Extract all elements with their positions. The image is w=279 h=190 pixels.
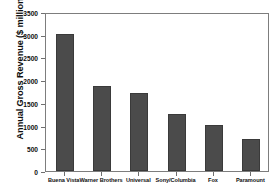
bar [56,34,74,171]
x-tick-mark [213,172,214,176]
bar [130,93,148,171]
x-tick-mark [138,172,139,176]
x-tick-label: Warner Brothers [79,177,122,183]
x-tick-mark [101,172,102,176]
y-tick-label: 3500 [23,10,38,17]
bar [168,114,186,171]
x-tick-label: Paramount [236,177,265,183]
x-tick-mark [64,172,65,176]
bar [93,86,111,171]
y-tick-mark [41,172,45,173]
y-tick-label: 3000 [23,32,38,39]
bar [205,125,223,171]
y-axis-ticks: 0500100015002000250030003500 [0,0,45,190]
y-tick-label: 2000 [23,78,38,85]
y-tick-label: 0 [34,169,38,176]
y-tick-label: 2500 [23,55,38,62]
x-tick-label: Sony/Columbia [156,177,196,183]
bar-chart-figure: Annual Gross Revenue ($ millions) 050010… [0,0,279,190]
plot-area [45,13,269,172]
y-tick-label: 1000 [23,123,38,130]
y-tick-label: 1500 [23,100,38,107]
x-tick-label: Fox [208,177,218,183]
x-tick-label: Buena Vista [48,177,79,183]
x-tick-mark [176,172,177,176]
x-tick-label: Universal [126,177,151,183]
y-tick-label: 500 [27,146,38,153]
x-tick-mark [250,172,251,176]
bar [242,139,260,171]
